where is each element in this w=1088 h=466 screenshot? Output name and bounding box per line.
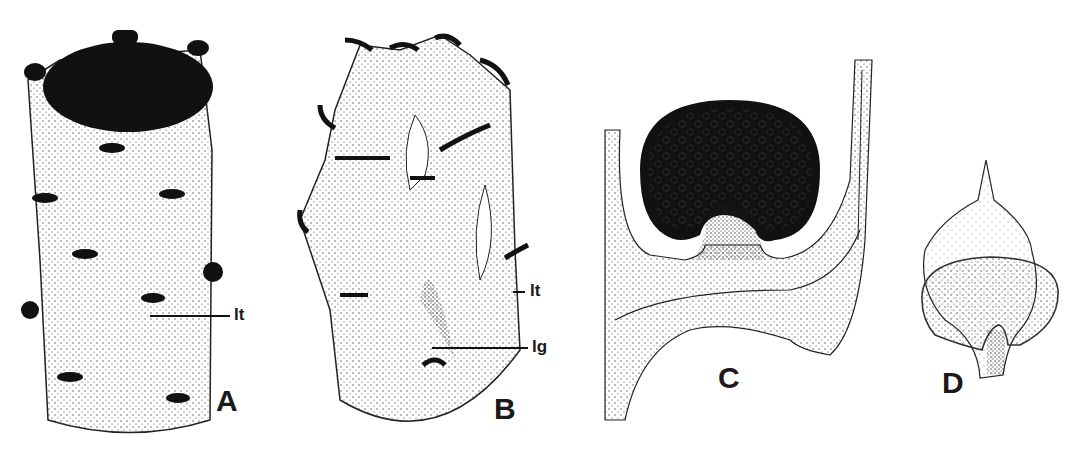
label-lt-b: lt: [530, 282, 540, 299]
panel-label-d: D: [942, 368, 964, 398]
label-lt-a: lt: [234, 306, 244, 323]
panel-label-c: C: [718, 363, 740, 393]
panel-a: lt A: [0, 0, 280, 466]
panel-b: lt lg B: [280, 0, 580, 466]
sporangium-section-illustration: [590, 0, 890, 466]
panel-label-a: A: [216, 386, 238, 416]
panel-d: D: [890, 0, 1088, 466]
cut-surface: [43, 42, 213, 132]
panel-c: C: [590, 0, 890, 466]
dissected-stele-illustration: [280, 0, 580, 466]
sporophyll-illustration: [890, 0, 1088, 466]
panel-label-b: B: [494, 394, 516, 424]
stele-cylinder-illustration: [0, 0, 280, 466]
label-lg-b: lg: [532, 338, 547, 355]
